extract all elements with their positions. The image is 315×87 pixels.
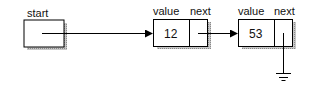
node-1: value next 12 bbox=[153, 5, 211, 49]
start-pointer: start bbox=[24, 7, 67, 50]
node1-value-label: value bbox=[153, 5, 179, 17]
node1-next-label: next bbox=[190, 5, 211, 17]
node2-value-label: value bbox=[238, 5, 264, 17]
node2-value: 53 bbox=[249, 27, 263, 41]
node-2: value next 53 bbox=[238, 5, 296, 49]
node2-next-label: next bbox=[274, 5, 295, 17]
node2-box bbox=[239, 20, 293, 47]
linked-list-diagram: start value next 12 value next 53 bbox=[0, 0, 315, 87]
start-label: start bbox=[27, 7, 48, 19]
node1-value: 12 bbox=[164, 27, 178, 41]
